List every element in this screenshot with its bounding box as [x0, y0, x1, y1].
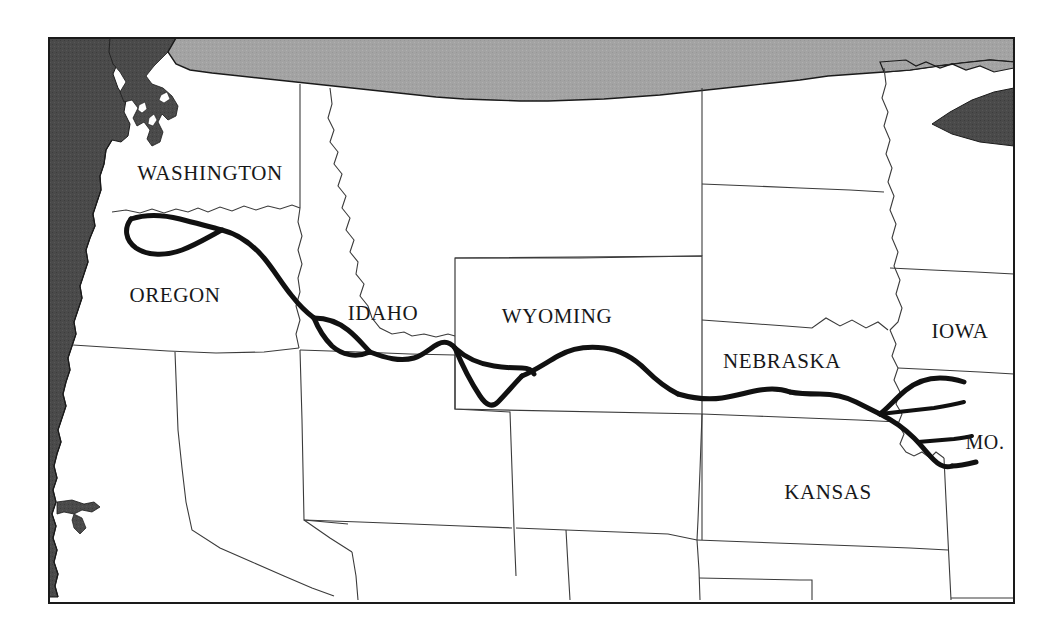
state-label-iowa: IOWA	[931, 319, 988, 343]
map-canvas: WASHINGTON OREGON IDAHO WYOMING NEBRASKA…	[0, 0, 1054, 639]
state-label-kansas: KANSAS	[784, 480, 872, 504]
state-label-wyoming: WYOMING	[502, 304, 612, 328]
state-label-idaho: IDAHO	[348, 301, 419, 325]
state-label-oregon: OREGON	[129, 283, 220, 307]
state-label-missouri: MO.	[965, 431, 1004, 453]
state-label-nebraska: NEBRASKA	[723, 349, 841, 373]
map-figure: WASHINGTON OREGON IDAHO WYOMING NEBRASKA…	[0, 0, 1054, 639]
state-label-washington: WASHINGTON	[137, 161, 283, 185]
